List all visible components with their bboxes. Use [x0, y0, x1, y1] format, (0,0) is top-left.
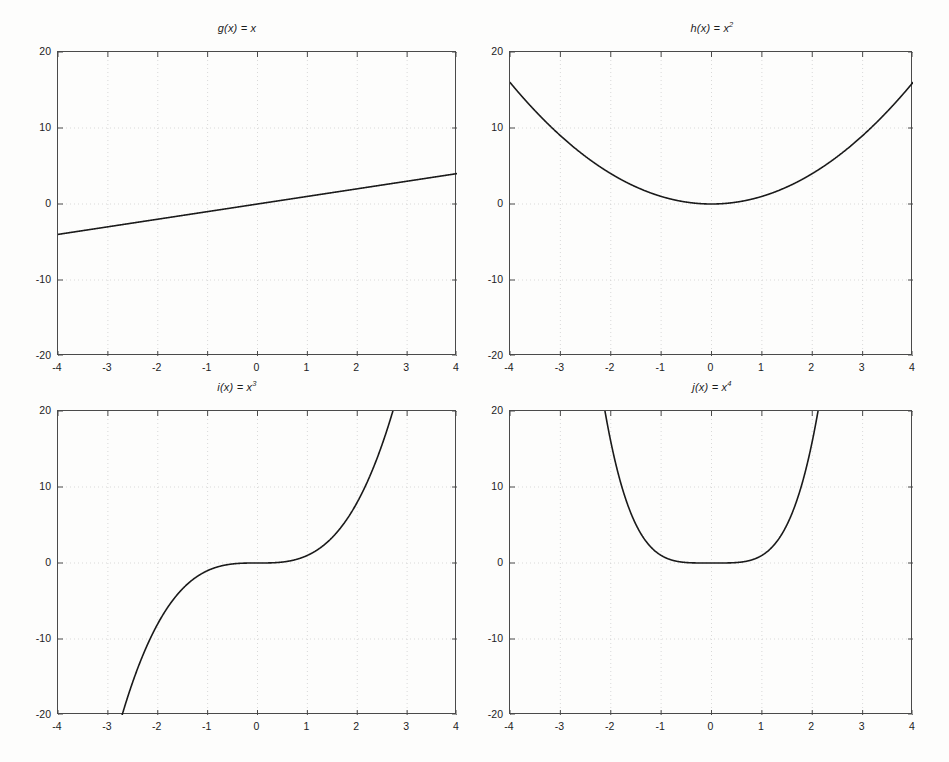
subplot-title-h-base: h(x) = x [691, 22, 730, 34]
subplot-title-j-base: j(x) = x [692, 381, 727, 393]
x-tick-label-g: -1 [202, 361, 211, 373]
x-tick-label-j: -2 [605, 720, 614, 732]
x-tick-label-i: -3 [102, 720, 111, 732]
x-tick-label-i: -4 [52, 720, 61, 732]
subplot-g: g(x) = x -20-1001020-4-3-2-101234 [0, 22, 474, 381]
x-tick-label-g: 1 [303, 361, 309, 373]
x-tick-label-j: -1 [655, 720, 664, 732]
x-tick-label-h: 3 [859, 361, 865, 373]
x-tick-label-j: 3 [859, 720, 865, 732]
x-tick-label-j: 2 [808, 720, 814, 732]
x-tick-label-i: 2 [353, 720, 359, 732]
y-tick-label-j: 10 [469, 480, 503, 492]
subplot-title-i: i(x) = x3 [0, 381, 474, 393]
x-tick-label-h: 4 [909, 361, 915, 373]
subplot-title-i-base: i(x) = x [217, 381, 252, 393]
x-tick-label-g: 3 [403, 361, 409, 373]
y-tick-label-g: 10 [17, 121, 51, 133]
y-tick-label-i: -20 [17, 708, 51, 720]
x-tick-label-h: -2 [605, 361, 614, 373]
x-tick-label-i: 3 [403, 720, 409, 732]
y-tick-label-g: 20 [17, 45, 51, 57]
x-tick-label-j: 1 [758, 720, 764, 732]
figure-canvas: g(x) = x -20-1001020-4-3-2-101234 h(x) =… [0, 0, 949, 762]
x-tick-label-h: -1 [655, 361, 664, 373]
x-tick-label-g: 0 [254, 361, 260, 373]
y-tick-label-h: 0 [469, 197, 503, 209]
y-tick-label-h: 20 [469, 45, 503, 57]
axes-j [509, 410, 912, 714]
x-tick-label-h: 0 [708, 361, 714, 373]
axes-g-canvas [58, 52, 457, 356]
y-tick-label-g: 0 [17, 197, 51, 209]
x-tick-label-i: -2 [152, 720, 161, 732]
y-tick-label-j: -20 [469, 708, 503, 720]
subplot-h: h(x) = x2 -20-1001020-4-3-2-101234 [475, 22, 949, 381]
subplot-title-h-exponent: 2 [729, 20, 733, 29]
x-tick-label-i: 1 [303, 720, 309, 732]
x-tick-label-i: -1 [202, 720, 211, 732]
axes-j-canvas [510, 411, 913, 715]
x-tick-label-g: -2 [152, 361, 161, 373]
x-tick-label-j: 4 [909, 720, 915, 732]
y-tick-label-h: 10 [469, 121, 503, 133]
axes-h-canvas [510, 52, 913, 356]
axes-g [57, 51, 456, 355]
x-tick-label-h: 2 [808, 361, 814, 373]
y-tick-label-i: 10 [17, 480, 51, 492]
subplot-title-i-exponent: 3 [252, 379, 256, 388]
y-tick-label-i: -10 [17, 632, 51, 644]
x-tick-label-g: 2 [353, 361, 359, 373]
axes-i [57, 410, 456, 714]
y-tick-label-j: -10 [469, 632, 503, 644]
subplot-i: i(x) = x3 -20-1001020-4-3-2-101234 [0, 381, 474, 741]
y-tick-label-i: 20 [17, 404, 51, 416]
x-tick-label-g: -3 [102, 361, 111, 373]
x-tick-label-j: 0 [708, 720, 714, 732]
axes-i-canvas [58, 411, 457, 715]
y-tick-label-i: 0 [17, 556, 51, 568]
x-tick-label-i: 4 [453, 720, 459, 732]
x-tick-label-g: -4 [52, 361, 61, 373]
subplot-title-j: j(x) = x4 [475, 381, 949, 393]
subplot-title-h: h(x) = x2 [475, 22, 949, 34]
x-tick-label-h: 1 [758, 361, 764, 373]
x-tick-label-j: -4 [504, 720, 513, 732]
y-tick-label-g: -20 [17, 349, 51, 361]
y-tick-label-j: 20 [469, 404, 503, 416]
subplot-title-g: g(x) = x [0, 22, 474, 34]
x-tick-label-i: 0 [254, 720, 260, 732]
y-tick-label-h: -20 [469, 349, 503, 361]
subplot-title-g-base: g(x) = x [218, 22, 257, 34]
x-tick-label-j: -3 [555, 720, 564, 732]
subplot-title-j-exponent: 4 [727, 379, 731, 388]
y-tick-label-j: 0 [469, 556, 503, 568]
x-tick-label-g: 4 [453, 361, 459, 373]
y-tick-label-h: -10 [469, 273, 503, 285]
subplot-j: j(x) = x4 -20-1001020-4-3-2-101234 [475, 381, 949, 741]
axes-h [509, 51, 912, 355]
y-tick-label-g: -10 [17, 273, 51, 285]
x-tick-label-h: -4 [504, 361, 513, 373]
x-tick-label-h: -3 [555, 361, 564, 373]
